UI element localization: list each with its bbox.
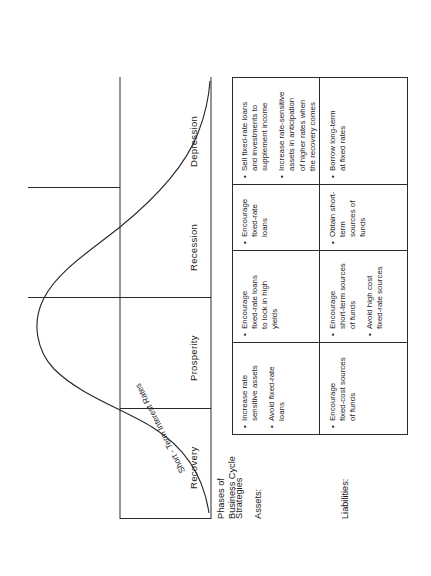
table-col-divider-3 xyxy=(232,184,408,185)
table-cell-assets-recovery: • Increase rate sensitive assets • Avoid… xyxy=(240,348,294,428)
bullet-icon: • xyxy=(240,171,250,178)
bullet-icon: • xyxy=(267,421,277,428)
caption-assets: Assets: xyxy=(253,489,264,519)
bullet-label: Increase rate sensitive assets xyxy=(240,365,260,421)
phase-label-recession: Recession xyxy=(188,224,199,271)
bullet-label: Borrow long-term at fixed rates xyxy=(328,110,348,171)
list-item: • Encourage short-term sources of funds xyxy=(328,254,358,336)
bullet-label: Obtain short-term sources of funds xyxy=(328,186,368,237)
caption-strategies: Strategies xyxy=(234,478,245,519)
bullet-icon: • xyxy=(277,171,287,178)
table-cell-assets-recession: • Encourage fixed-rate loans xyxy=(240,186,277,244)
table-cell-liabilities-recession: • Obtain short-term sources of funds xyxy=(328,186,375,244)
list-item: • Increase rate-sensitive assets in anti… xyxy=(277,80,317,178)
chart-svg xyxy=(28,77,213,519)
bullet-label: Avoid high cost fixed-rate sources xyxy=(365,266,385,329)
list-item: • Avoid high cost fixed-rate sources xyxy=(365,254,385,336)
table-col-edge-right xyxy=(232,77,408,78)
table-cell-liabilities-prosperity: • Encourage short-term sources of funds … xyxy=(328,254,393,336)
phase-label-recovery: Recovery xyxy=(188,446,199,489)
table-rule-bottom xyxy=(407,77,408,435)
strategy-table: • Increase rate sensitive assets • Avoid… xyxy=(232,77,408,435)
bullet-label: Encourage fixed-rate loans xyxy=(240,186,270,237)
table-rule-top xyxy=(232,77,233,435)
bullet-label: Encourage short-term sources of funds xyxy=(328,263,358,329)
bullet-icon: • xyxy=(240,237,250,244)
interest-rate-cycle-chart: Recovery Prosperity Recession Depression… xyxy=(28,77,213,519)
table-cell-liabilities-depression: • Borrow long-term at fixed rates xyxy=(328,80,355,178)
list-item: • Sell fixed-rate loans and investments … xyxy=(240,80,270,178)
list-item: • Encourage fixed-rate loans xyxy=(240,186,270,244)
list-item: • Encourage fixed-rate loans to lock in … xyxy=(240,256,280,336)
bullet-label: Encourage fixed-rate loans to lock in hi… xyxy=(240,275,280,329)
caption-liabilities: Liabilities: xyxy=(340,479,351,519)
list-item: • Borrow long-term at fixed rates xyxy=(328,80,348,178)
list-item: • Avoid fixed-rate loans xyxy=(267,348,287,428)
phase-label-depression: Depression xyxy=(188,116,199,167)
table-col-edge-left xyxy=(232,434,408,435)
table-col-divider-2 xyxy=(232,250,408,251)
table-col-divider-1 xyxy=(232,342,408,343)
bullet-icon: • xyxy=(328,329,338,336)
phase-label-prosperity: Prosperity xyxy=(188,335,199,381)
bullet-icon: • xyxy=(328,421,338,428)
bullet-label: Sell fixed-rate loans and investments to… xyxy=(240,102,270,171)
list-item: • Encourage fixed-cost sources of funds xyxy=(328,348,358,428)
bullet-label: Encourage fixed-cost sources of funds xyxy=(328,357,358,421)
table-cell-assets-prosperity: • Encourage fixed-rate loans to lock in … xyxy=(240,256,287,336)
table-cell-liabilities-recovery: • Encourage fixed-cost sources of funds xyxy=(328,348,365,428)
rotated-figure-wrapper: Recovery Prosperity Recession Depression… xyxy=(0,0,431,576)
bullet-label: Avoid fixed-rate loans xyxy=(267,366,287,421)
bullet-icon: • xyxy=(240,329,250,336)
bullet-label: Increase rate-sensitive assets in antici… xyxy=(277,92,317,171)
bullet-icon: • xyxy=(240,421,250,428)
bullet-icon: • xyxy=(328,171,338,178)
list-item: • Obtain short-term sources of funds xyxy=(328,186,368,244)
bullet-icon: • xyxy=(365,329,375,336)
business-cycle-strategy-figure: Recovery Prosperity Recession Depression… xyxy=(0,0,431,576)
list-item: • Increase rate sensitive assets xyxy=(240,348,260,428)
bullet-icon: • xyxy=(328,237,338,244)
table-cell-assets-depression: • Sell fixed-rate loans and investments … xyxy=(240,80,325,178)
